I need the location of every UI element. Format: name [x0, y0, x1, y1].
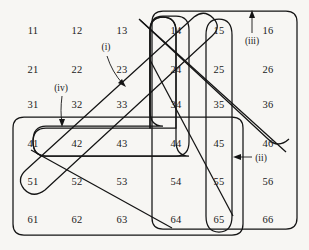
- cell-21: 21: [28, 64, 39, 75]
- cell-14: 14: [171, 25, 182, 36]
- loop-outer-left-rect: [13, 117, 243, 235]
- loop-vertical-pill-15-65: [206, 19, 232, 232]
- cell-65: 65: [214, 214, 225, 225]
- cell-52: 52: [72, 176, 83, 187]
- callout-arrow-iv: [61, 96, 62, 122]
- loop-outer-right-rect: [152, 11, 297, 229]
- diagonal-stroke-51-to-64: [31, 150, 172, 228]
- cell-41: 41: [28, 138, 39, 149]
- cell-51: 51: [28, 176, 39, 187]
- cell-22: 22: [72, 64, 83, 75]
- cell-46: 46: [263, 138, 274, 149]
- figure-canvas: 11 12 13 14 15 16 21 22 23 24 25 26 31 3…: [0, 0, 309, 250]
- cell-24: 24: [171, 64, 182, 75]
- cell-43: 43: [117, 138, 128, 149]
- cell-55: 55: [214, 176, 225, 187]
- cell-23: 23: [117, 64, 128, 75]
- cell-33: 33: [117, 99, 128, 110]
- cell-31: 31: [28, 99, 39, 110]
- cell-45: 45: [214, 138, 225, 149]
- callout-label-ii: (ii): [255, 153, 267, 163]
- cell-54: 54: [171, 176, 182, 187]
- cell-56: 56: [263, 176, 274, 187]
- cell-11: 11: [28, 25, 39, 36]
- cell-62: 62: [72, 214, 83, 225]
- cell-66: 66: [263, 214, 274, 225]
- cell-44: 44: [171, 138, 182, 149]
- callout-label-iv: (iv): [54, 83, 68, 93]
- cell-25: 25: [214, 64, 225, 75]
- cell-42: 42: [72, 138, 83, 149]
- diagonal-stroke-topleft-to-bottomright: [139, 19, 286, 152]
- cell-32: 32: [72, 99, 83, 110]
- cell-64: 64: [171, 214, 182, 225]
- cell-63: 63: [117, 214, 128, 225]
- cell-53: 53: [117, 176, 128, 187]
- cell-61: 61: [28, 214, 39, 225]
- callout-label-i: (i): [102, 42, 111, 52]
- cell-13: 13: [117, 25, 128, 36]
- cell-35: 35: [214, 99, 225, 110]
- cell-15: 15: [214, 25, 225, 36]
- cell-12: 12: [72, 25, 83, 36]
- cell-34: 34: [171, 99, 182, 110]
- callout-arrowhead-ii: [233, 154, 241, 160]
- callout-label-iii: (iii): [245, 36, 259, 46]
- cell-36: 36: [263, 99, 274, 110]
- cell-16: 16: [263, 25, 274, 36]
- cell-26: 26: [263, 64, 274, 75]
- diagram-strokes: [0, 0, 309, 250]
